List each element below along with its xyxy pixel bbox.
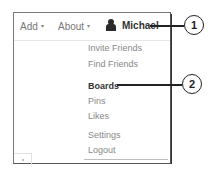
avatar-icon [106,19,116,31]
about-menu-button[interactable]: About▾ [58,21,90,32]
dot-icon [22,159,24,161]
menu-item-pins[interactable]: Pins [88,96,106,106]
callout-1-badge: 1 [184,15,204,35]
menu-divider [84,159,168,160]
menu-item-boards[interactable]: Boards [88,81,119,91]
callout-guide-line [171,14,172,164]
callout-1-number: 1 [191,19,197,31]
corner-panel [14,153,32,165]
menu-item-settings[interactable]: Settings [88,130,121,140]
menu-item-likes[interactable]: Likes [88,111,109,121]
add-label: Add [20,21,38,32]
menu-item-invite-friends[interactable]: Invite Friends [88,43,142,53]
app-frame: Add▾ About▾ Michael Invite Friends Find … [13,12,171,164]
menu-item-logout[interactable]: Logout [88,145,116,155]
add-menu-button[interactable]: Add▾ [20,21,44,32]
top-navbar: Add▾ About▾ Michael [14,13,170,41]
menu-item-find-friends[interactable]: Find Friends [88,59,138,69]
callout-2-number: 2 [189,78,195,90]
callout-2-leader [117,84,182,86]
callout-2-badge: 2 [182,74,202,94]
callout-1-leader [150,25,184,27]
about-label: About [58,21,84,32]
caret-down-icon: ▾ [87,23,90,29]
caret-down-icon: ▾ [41,23,44,29]
